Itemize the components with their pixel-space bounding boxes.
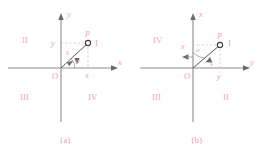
horizontal-axis-arrowhead-b xyxy=(243,65,250,70)
diagram-a-canvas: y x y x P s α O I II III IV xyxy=(0,0,131,149)
quadrant-label-b-i: I xyxy=(228,38,231,48)
angle-arc-a xyxy=(72,59,76,68)
vertical-axis-label-a: y xyxy=(66,9,71,19)
horizontal-axis-label-a: x xyxy=(117,57,122,67)
origin-label-b: O xyxy=(184,71,190,81)
quadrant-label-a-iii: III xyxy=(20,92,29,102)
radius-label-a: s xyxy=(66,48,69,57)
point-p-marker-b xyxy=(217,42,222,47)
horizontal-axis-arrowhead-a xyxy=(111,65,118,70)
abscissa-label-a: x xyxy=(84,70,89,80)
ordinate-label-b: x xyxy=(180,41,185,51)
ordinate-label-a: y xyxy=(50,38,55,48)
quadrant-label-b-ii: II xyxy=(223,92,229,102)
quadrant-label-a-ii: II xyxy=(22,35,28,45)
quadrant-label-a-i: I xyxy=(95,38,98,48)
angle-label-b: α xyxy=(196,46,200,54)
caption-a: (a) xyxy=(0,135,131,145)
diagram-b-canvas: x y x y P s α O I IV III II xyxy=(131,0,263,149)
point-p-label-a: P xyxy=(84,30,90,39)
diagram-panel-a: y x y x P s α O I II III IV (a) xyxy=(0,0,131,149)
diagram-panel-b: x y x y P s α O I IV III II (b) xyxy=(131,0,263,149)
vertical-axis-arrowhead-b xyxy=(190,13,195,20)
point-p-marker-a xyxy=(85,40,90,45)
caption-b: (b) xyxy=(131,135,263,145)
quadrant-label-b-iii: III xyxy=(152,92,161,102)
quadrant-label-a-iv: IV xyxy=(88,92,98,102)
figure-sheet: y x y x P s α O I II III IV (a) xyxy=(0,0,263,149)
abscissa-label-b: y xyxy=(216,71,221,81)
quadrant-label-b-iv: IV xyxy=(153,35,163,45)
point-p-label-b: P xyxy=(216,32,222,41)
coordinate-diagram-b: x y x y P s α O I IV III II xyxy=(131,0,263,135)
angle-label-a: α xyxy=(76,57,80,65)
coordinate-diagram-a: y x y x P s α O I II III IV xyxy=(0,0,131,135)
vertical-axis-arrowhead-a xyxy=(58,13,63,20)
origin-label-a: O xyxy=(52,71,58,81)
horizontal-axis-label-b: y xyxy=(249,57,254,67)
radius-label-b: s xyxy=(210,59,213,68)
vertical-axis-label-b: x xyxy=(198,9,203,19)
